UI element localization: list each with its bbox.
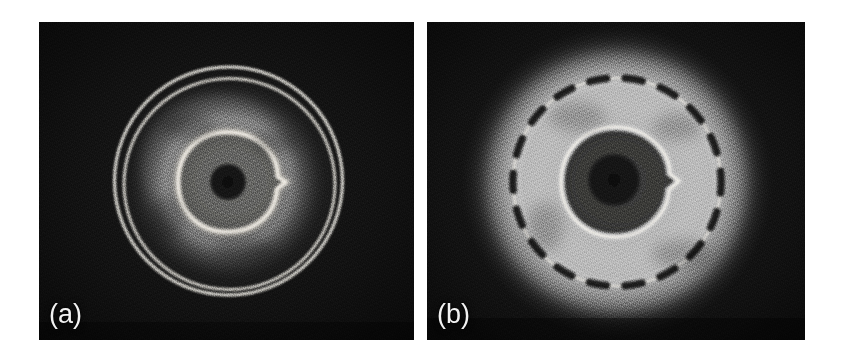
panel-a-image [39, 22, 414, 340]
panel-a: (a) [39, 22, 414, 340]
panel-a-dark-core [210, 164, 246, 200]
panel-b-label: (b) [437, 301, 470, 328]
panel-b-image [427, 22, 805, 340]
panel-b-svg [427, 22, 805, 340]
panel-a-label: (a) [49, 301, 82, 328]
panel-b-bottom-band [427, 318, 805, 340]
panel-b: (b) [427, 22, 805, 340]
panel-a-svg [39, 22, 414, 340]
figure-container: (a) [0, 0, 842, 355]
panel-a-bottom-band [39, 322, 414, 340]
panel-b-dark-core [588, 154, 640, 206]
